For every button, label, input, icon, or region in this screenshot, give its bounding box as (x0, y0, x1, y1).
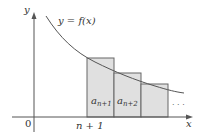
tick-label-n-plus-1: n + 1 (76, 120, 104, 131)
rect-a-n-plus-1 (87, 58, 114, 117)
y-axis-label: y (23, 4, 30, 15)
origin-label: 0 (25, 118, 31, 129)
curve-label: y = f(x) (57, 15, 96, 26)
integral-test-diagram: y x 0 n + 1 y = f(x) an+1 an+2 · · · (0, 0, 205, 137)
x-axis-label: x (186, 118, 192, 129)
rectangles (87, 58, 168, 117)
ellipsis: · · · (172, 100, 185, 109)
y-axis-arrow-icon (32, 12, 37, 19)
